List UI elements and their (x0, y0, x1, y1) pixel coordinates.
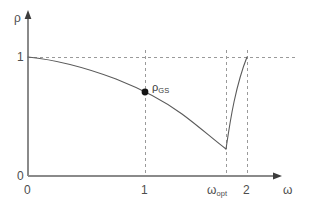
curve-descending-branch (28, 57, 226, 149)
y-tick-label-0: 0 (17, 170, 24, 182)
x-tick-label-0: 0 (24, 184, 31, 196)
y-axis-arrow-icon (25, 10, 32, 19)
x-tick-label-omega-opt: ωopt (207, 184, 227, 196)
x-axis-arrow-icon (273, 173, 282, 180)
x-tick-label-1: 1 (141, 184, 148, 196)
rho-gs-label: ρGS (152, 82, 170, 93)
y-tick-label-1: 1 (17, 51, 24, 63)
rho-gs-label-subscript: GS (158, 86, 169, 95)
curve-ascending-branch (226, 57, 247, 149)
x-tick-omega-opt-base: ω (207, 183, 216, 197)
convergence-factor-chart: ρ ω 1 0 0 1 ωopt 2 ρGS (0, 0, 310, 205)
x-tick-label-2: 2 (243, 184, 250, 196)
x-axis-label: ω (283, 184, 292, 196)
y-axis-label: ρ (14, 12, 21, 24)
rho-gs-marker (142, 89, 149, 96)
x-tick-omega-opt-subscript: opt (216, 189, 227, 198)
plot-canvas (0, 0, 310, 205)
